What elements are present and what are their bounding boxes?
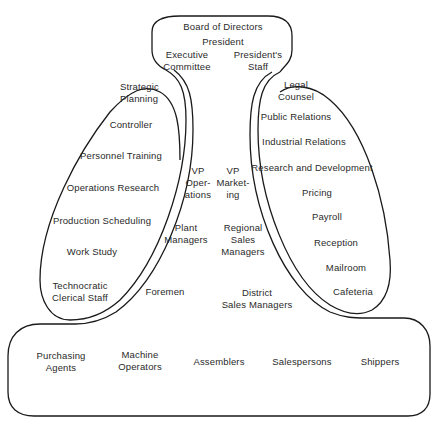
- label-operations-research: Operations Research: [67, 182, 160, 194]
- label-production-scheduling: Production Scheduling: [53, 215, 151, 227]
- label-assemblers: Assemblers: [193, 356, 244, 368]
- label-legal-counsel: Legal Counsel: [278, 79, 314, 103]
- label-reception: Reception: [314, 237, 358, 249]
- label-controller: Controller: [110, 119, 153, 131]
- label-presidents-staff: President's Staff: [234, 49, 282, 73]
- label-district-sales-managers: District Sales Managers: [222, 287, 293, 311]
- label-foremen: Foremen: [145, 286, 184, 298]
- label-purchasing-agents: Purchasing Agents: [36, 350, 85, 374]
- label-industrial-relations: Industrial Relations: [262, 136, 346, 148]
- label-executive-committee: Executive Committee: [163, 49, 210, 73]
- label-board-of-directors: Board of Directors: [183, 21, 262, 33]
- label-cafeteria: Cafeteria: [333, 286, 373, 298]
- label-work-study: Work Study: [67, 246, 117, 258]
- label-research-and-development: Research and Development: [251, 162, 372, 174]
- label-plant-managers: Plant Managers: [164, 222, 207, 246]
- label-shippers: Shippers: [361, 356, 400, 368]
- label-president: President: [202, 36, 243, 48]
- label-pricing: Pricing: [302, 187, 332, 199]
- label-salespersons: Salespersons: [272, 356, 331, 368]
- label-vp-marketing: VP Market- ing: [216, 165, 249, 201]
- label-public-relations: Public Relations: [261, 111, 332, 123]
- label-personnel-training: Personnel Training: [80, 150, 162, 162]
- label-vp-operations: VP Oper- ations: [185, 165, 211, 201]
- label-strategic-planning: Strategic Planning: [120, 81, 154, 105]
- label-machine-operators: Machine Operators: [118, 349, 162, 373]
- label-payroll: Payroll: [312, 211, 342, 223]
- label-mailroom: Mailroom: [326, 262, 366, 274]
- label-technocratic-clerical-staff: Technocratic Clerical Staff: [52, 280, 108, 304]
- label-regional-sales-managers: Regional Sales Managers: [221, 222, 264, 258]
